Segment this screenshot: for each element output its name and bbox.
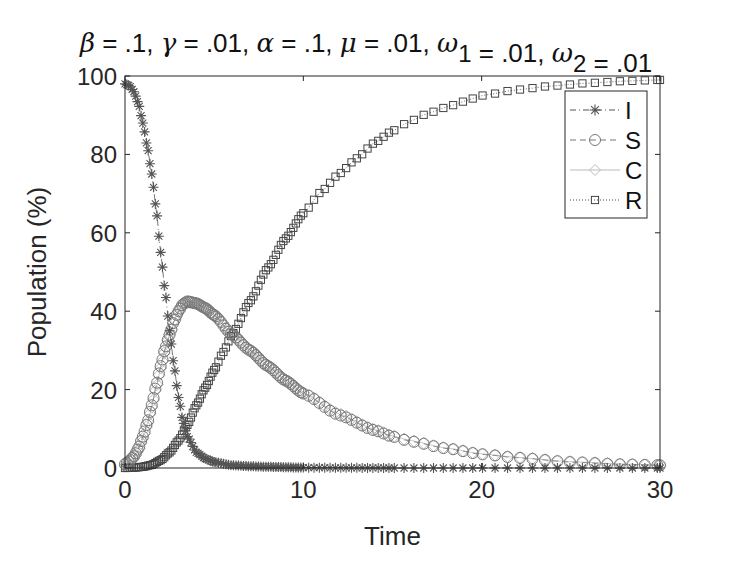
y-tick-label: 100 (77, 63, 117, 90)
legend-label: R (625, 187, 642, 214)
series-C (119, 296, 666, 472)
y-tick-label: 80 (90, 141, 117, 168)
x-tick-label: 20 (468, 476, 495, 503)
y-tick-label: 60 (90, 220, 117, 247)
y-axis-label: Population (%) (22, 187, 52, 358)
x-tick-label: 0 (118, 476, 131, 503)
series-S (120, 296, 666, 471)
legend-label: S (625, 127, 641, 154)
title-text: β = .1, γ = .01, α = .1, μ = .01, ω1 = .… (79, 28, 652, 78)
y-tick-label: 0 (104, 455, 117, 482)
x-tick-label: 30 (647, 476, 674, 503)
legend-label: C (625, 157, 642, 184)
y-tick-label: 20 (90, 377, 117, 404)
legend-label: I (625, 97, 632, 124)
y-tick-label: 40 (90, 298, 117, 325)
sicr-line-chart: β = .1, γ = .01, α = .1, μ = .01, ω1 = .… (0, 0, 732, 572)
x-axis-label: Time (364, 521, 421, 551)
x-tick-label: 10 (290, 476, 317, 503)
chart-title: β = .1, γ = .01, α = .1, μ = .01, ω1 = .… (79, 28, 652, 78)
legend: ISCR (565, 91, 647, 218)
